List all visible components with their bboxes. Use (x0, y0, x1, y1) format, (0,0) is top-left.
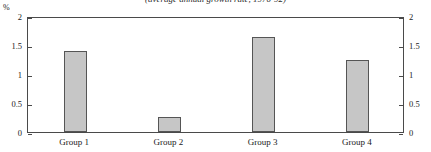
y-axis-tick-left (28, 76, 32, 77)
y-axis-label-left: 1 (0, 71, 22, 80)
y-axis-tick-right (399, 18, 403, 19)
bar (252, 37, 275, 132)
y-axis-label-right: 1 (409, 71, 413, 80)
x-axis-label: Group 2 (133, 137, 203, 147)
y-axis-label-left: 0.5 (0, 100, 22, 109)
y-axis-tick-right (399, 47, 403, 48)
y-axis-tick-left (28, 18, 32, 19)
x-axis-label: Group 4 (322, 137, 392, 147)
y-axis-unit-label: % (3, 4, 10, 12)
y-axis-label-left: 0 (0, 129, 22, 138)
y-axis-label-right: 0 (409, 129, 413, 138)
y-axis-label-left: 1.5 (0, 42, 22, 51)
y-axis-tick-right (399, 134, 403, 135)
y-axis-tick-left (28, 134, 32, 135)
chart-title: (average annual growth rate, 1970-92) (0, 0, 431, 4)
plot-area (27, 17, 404, 133)
y-axis-tick-left (28, 105, 32, 106)
y-axis-label-left: 2 (0, 13, 22, 22)
bar (158, 117, 181, 132)
y-axis-label-right: 2 (409, 13, 413, 22)
chart-figure: (average annual growth rate, 1970-92) % … (0, 0, 431, 152)
y-axis-tick-right (399, 105, 403, 106)
y-axis-label-right: 0.5 (409, 100, 420, 109)
y-axis-tick-left (28, 47, 32, 48)
x-axis-label: Group 3 (228, 137, 298, 147)
y-axis-label-right: 1.5 (409, 42, 420, 51)
y-axis-tick-right (399, 76, 403, 77)
x-axis-label: Group 1 (39, 137, 109, 147)
bar (64, 51, 87, 132)
bar (346, 60, 369, 132)
